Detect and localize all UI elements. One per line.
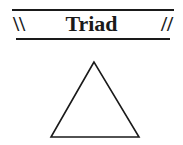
triangle-icon: [51, 62, 139, 137]
triangle-figure: [0, 0, 183, 145]
